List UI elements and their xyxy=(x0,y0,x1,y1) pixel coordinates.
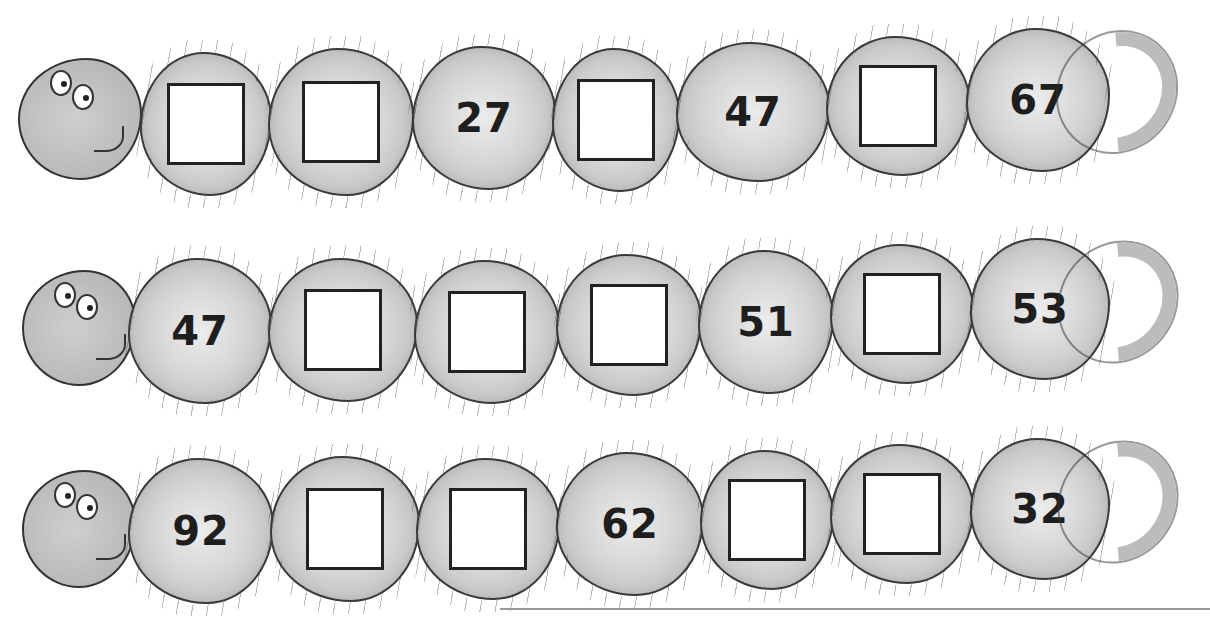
segment-1 xyxy=(140,52,272,196)
caterpillar-head-icon xyxy=(18,58,142,180)
segment-3: 27 xyxy=(412,46,556,190)
segment-4 xyxy=(552,48,680,192)
answer-box[interactable] xyxy=(306,488,384,570)
eye-icon xyxy=(54,282,76,308)
caterpillar-3: 92 62 32 xyxy=(0,410,1210,610)
page-edge-divider xyxy=(500,608,1210,610)
segment-1: 92 xyxy=(128,458,274,604)
answer-box[interactable] xyxy=(449,488,527,570)
answer-box[interactable] xyxy=(859,65,937,147)
answer-box[interactable] xyxy=(304,289,382,371)
segment-5: 47 xyxy=(676,42,830,182)
eye-icon xyxy=(72,84,94,110)
segment-5 xyxy=(700,450,834,590)
answer-box[interactable] xyxy=(577,79,655,161)
segment-number: 47 xyxy=(678,89,828,135)
segment-number: 27 xyxy=(414,95,554,141)
segment-3 xyxy=(416,458,560,600)
segment-3 xyxy=(414,260,560,404)
caterpillar-head-icon xyxy=(22,270,136,386)
segment-2 xyxy=(270,456,420,602)
mouth-icon xyxy=(96,534,126,560)
segment-2 xyxy=(268,48,414,196)
eye-icon xyxy=(76,294,98,320)
segment-4 xyxy=(556,254,702,396)
segment-4: 62 xyxy=(556,452,704,596)
caterpillar-2: 47 51 53 xyxy=(0,210,1210,410)
segment-number: 47 xyxy=(130,308,270,354)
eye-icon xyxy=(50,70,72,96)
segment-number: 92 xyxy=(130,508,272,554)
caterpillar-1: 27 47 67 xyxy=(0,0,1210,200)
answer-box[interactable] xyxy=(590,284,668,366)
answer-box[interactable] xyxy=(302,81,380,163)
segment-number: 62 xyxy=(558,501,702,547)
segment-6 xyxy=(826,36,970,176)
mouth-icon xyxy=(94,126,124,152)
caterpillar-head-icon xyxy=(22,470,136,588)
segment-2 xyxy=(268,258,418,402)
segment-6 xyxy=(830,244,974,384)
answer-box[interactable] xyxy=(863,473,941,555)
eye-icon xyxy=(54,482,76,508)
answer-box[interactable] xyxy=(167,83,245,165)
segment-6 xyxy=(830,444,974,584)
answer-box[interactable] xyxy=(863,273,941,355)
segment-1: 47 xyxy=(128,258,272,404)
answer-box[interactable] xyxy=(448,291,526,373)
mouth-icon xyxy=(96,334,126,360)
segment-5: 51 xyxy=(698,250,834,394)
eye-icon xyxy=(76,494,98,520)
segment-number: 51 xyxy=(700,299,832,345)
answer-box[interactable] xyxy=(728,479,806,561)
